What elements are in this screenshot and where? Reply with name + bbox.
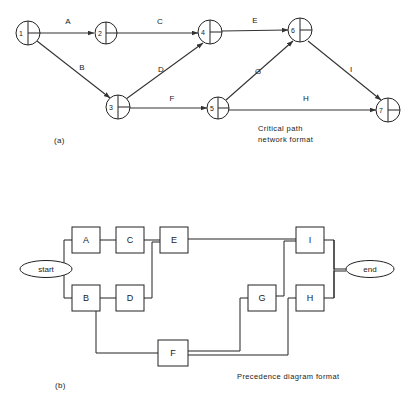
figure-svg: 1 2 3 4 xyxy=(0,0,418,407)
network-node-3[interactable]: 3 xyxy=(106,95,130,119)
network-edge-label-H: H xyxy=(303,94,309,103)
precedence-activity-I[interactable]: I xyxy=(296,227,324,253)
precedence-link-F-H xyxy=(188,298,296,355)
precedence-link-D-E xyxy=(144,242,160,298)
precedence-activity-A[interactable]: A xyxy=(72,227,100,253)
network-node-1[interactable]: 1 xyxy=(16,21,40,45)
network-node-4-label: 4 xyxy=(201,29,205,36)
precedence-terminal-end-label: end xyxy=(363,265,376,274)
precedence-activity-E-label: E xyxy=(171,235,177,245)
precedence-link-H-end xyxy=(324,271,346,298)
network-edge-label-G: G xyxy=(255,67,261,76)
precedence-link-G-I xyxy=(276,241,296,296)
precedence-activity-C[interactable]: C xyxy=(116,227,144,253)
network-node-6-label: 6 xyxy=(291,27,295,34)
panel-b-precedence: start end A C E I xyxy=(20,227,394,390)
network-edge-B xyxy=(37,41,110,98)
precedence-activity-G[interactable]: G xyxy=(248,285,276,311)
network-edge-label-B: B xyxy=(79,63,84,72)
panel-b-label: (b) xyxy=(55,381,66,390)
precedence-link-B-F xyxy=(96,311,158,353)
network-node-1-label: 1 xyxy=(19,30,23,37)
network-node-7[interactable]: 7 xyxy=(376,98,400,122)
panel-a-network: 1 2 3 4 xyxy=(16,16,400,145)
figure-root: 1 2 3 4 xyxy=(0,0,418,407)
network-node-6[interactable]: 6 xyxy=(288,18,312,42)
precedence-activity-F-label: F xyxy=(170,348,176,358)
network-edge-D xyxy=(126,43,203,99)
precedence-activity-E[interactable]: E xyxy=(160,227,188,253)
precedence-activity-G-label: G xyxy=(258,293,265,303)
precedence-activity-H[interactable]: H xyxy=(296,285,324,311)
precedence-activity-B[interactable]: B xyxy=(72,285,100,311)
network-edge-I xyxy=(308,41,381,100)
panel-a-caption-line1: Critical path xyxy=(258,124,303,133)
network-node-2[interactable]: 2 xyxy=(95,22,117,44)
precedence-activity-H-label: H xyxy=(307,293,314,303)
precedence-link-F-G xyxy=(188,298,248,351)
precedence-link-I-end xyxy=(324,240,346,269)
network-edge-label-D: D xyxy=(158,65,164,74)
precedence-activity-A-label: A xyxy=(83,235,89,245)
precedence-activity-I-label: I xyxy=(309,235,312,245)
precedence-terminal-end[interactable]: end xyxy=(346,261,394,278)
network-edge-E xyxy=(222,30,288,31)
precedence-activity-C-label: C xyxy=(127,235,134,245)
precedence-activity-F[interactable]: F xyxy=(158,340,188,366)
precedence-terminal-start-label: start xyxy=(38,265,54,274)
panel-b-caption-line1: Precedence diagram format xyxy=(237,372,340,381)
panel-a-label: (a) xyxy=(54,136,65,145)
precedence-activity-D[interactable]: D xyxy=(116,285,144,311)
precedence-activity-D-label: D xyxy=(127,293,134,303)
network-node-4[interactable]: 4 xyxy=(198,20,222,44)
precedence-terminal-start[interactable]: start xyxy=(20,261,72,278)
network-node-7-label: 7 xyxy=(379,107,383,114)
network-edge-label-C: C xyxy=(157,17,163,26)
network-node-2-label: 2 xyxy=(98,30,102,37)
network-edge-label-E: E xyxy=(252,16,257,25)
network-node-5[interactable]: 5 xyxy=(207,97,229,119)
network-edge-label-A: A xyxy=(65,17,71,26)
panel-a-caption-line2: network format xyxy=(258,135,314,144)
network-edge-label-I: I xyxy=(350,65,352,74)
network-node-5-label: 5 xyxy=(210,105,214,112)
network-node-3-label: 3 xyxy=(109,104,113,111)
network-edge-label-F: F xyxy=(170,94,175,103)
precedence-activity-B-label: B xyxy=(83,293,89,303)
